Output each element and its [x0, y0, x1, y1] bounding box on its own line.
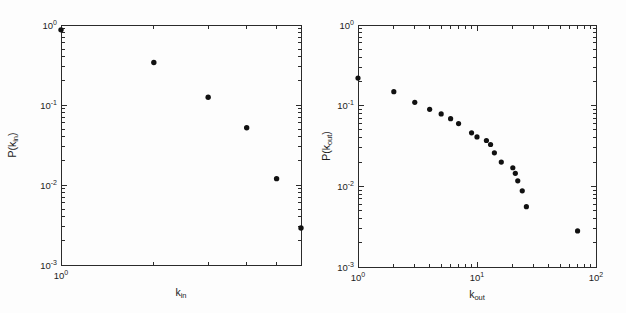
data-point	[456, 121, 461, 126]
tick-label: 102	[589, 271, 604, 283]
y-tick-labels: 10010-110-210-3	[40, 19, 57, 271]
y-axis-label: P(kout)	[320, 131, 334, 161]
data-point	[515, 178, 520, 183]
out-degree-plot-svg: 10010110210010-110-210-3koutP(kout)	[313, 0, 626, 313]
data-point	[355, 75, 360, 80]
plot-frame	[358, 25, 596, 267]
y-tick-labels: 10010-110-210-3	[337, 19, 354, 273]
data-point	[274, 176, 279, 181]
tick-label: 100	[340, 19, 355, 31]
tick-label: 100	[43, 19, 58, 31]
data-point	[58, 27, 63, 32]
y-axis-label: P(kin)	[6, 132, 20, 157]
data-point	[391, 89, 396, 94]
data-point	[524, 204, 529, 209]
data-point	[448, 116, 453, 121]
out-degree-distribution-plot: 10010110210010-110-210-3koutP(kout)	[313, 0, 626, 313]
x-tick-labels: 100101102	[351, 271, 604, 283]
x-axis-label: kin	[175, 286, 186, 300]
tick-label: 10-2	[337, 180, 354, 192]
data-points	[355, 75, 580, 233]
data-point	[575, 228, 580, 233]
data-point	[205, 95, 210, 100]
data-point	[244, 125, 249, 130]
data-point	[513, 171, 518, 176]
data-point	[427, 107, 432, 112]
tick-label: 10-1	[337, 99, 354, 111]
data-point	[151, 60, 156, 65]
x-axis-label: kout	[469, 288, 486, 302]
in-degree-distribution-plot: 10010010-110-210-3kinP(kin)	[0, 0, 313, 313]
plot-frame	[61, 25, 301, 265]
in-degree-plot-svg: 10010010-110-210-3kinP(kin)	[0, 0, 313, 313]
data-point	[510, 165, 515, 170]
tick-label: 100	[54, 269, 69, 281]
data-point	[439, 111, 444, 116]
data-point	[469, 130, 474, 135]
data-point	[298, 225, 303, 230]
axis-ticks	[358, 25, 596, 267]
data-points	[58, 27, 303, 231]
tick-label: 10-3	[337, 261, 354, 273]
data-point	[499, 159, 504, 164]
data-point	[412, 100, 417, 105]
tick-label: 101	[470, 271, 485, 283]
data-point	[492, 150, 497, 155]
tick-label: 10-1	[40, 99, 57, 111]
axis-ticks	[61, 25, 301, 265]
tick-label: 100	[351, 271, 366, 283]
x-tick-labels: 100	[54, 269, 69, 281]
data-point	[484, 138, 489, 143]
data-point	[520, 188, 525, 193]
tick-label: 10-3	[40, 259, 57, 271]
tick-label: 10-2	[40, 179, 57, 191]
data-point	[488, 142, 493, 147]
data-point	[474, 134, 479, 139]
